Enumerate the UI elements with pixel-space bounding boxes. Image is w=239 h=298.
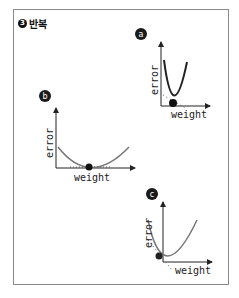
- error-curve-c: [148, 220, 197, 256]
- y-label-c: error: [143, 218, 154, 248]
- error-curve-b: [58, 147, 129, 168]
- x-label-b: weight: [74, 172, 110, 183]
- point-a: [169, 99, 177, 107]
- panel-c: c error weight: [143, 188, 212, 276]
- error-curve-a: [164, 60, 187, 96]
- point-b: [86, 164, 93, 171]
- panel-b: b error weight: [39, 90, 135, 183]
- y-label-a: error: [149, 65, 160, 95]
- badge-a-label: a: [139, 30, 144, 39]
- x-label-a: weight: [171, 109, 207, 120]
- panel-a: a error weight: [135, 28, 210, 120]
- point-c: [156, 253, 163, 260]
- badge-c-label: c: [150, 190, 154, 199]
- y-label-b: error: [44, 128, 55, 158]
- gradient-iteration-diagram: a error weight b error weight c error we…: [0, 0, 239, 298]
- badge-b-label: b: [42, 92, 47, 101]
- x-label-c: weight: [175, 265, 211, 276]
